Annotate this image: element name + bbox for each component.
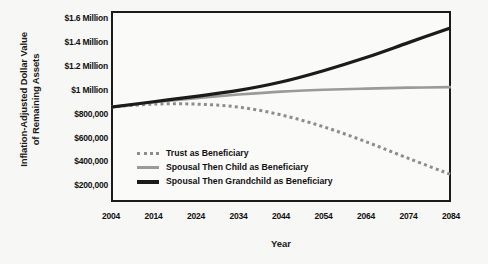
y-axis-tick-label: $1.2 Million xyxy=(0,61,108,71)
x-axis-tick-label: 2014 xyxy=(134,211,174,221)
chart-container: Inflation-Adjusted Dollar Value of Remai… xyxy=(0,0,488,264)
legend-label: Trust as Beneficiary xyxy=(166,148,249,158)
y-axis-tick-label: $1.6 Million xyxy=(0,13,108,23)
legend-item[interactable]: Spousal Then Child as Beneficiary xyxy=(137,160,333,174)
y-axis-tick-label: $200,000 xyxy=(0,180,108,190)
x-axis-tick-label: 2054 xyxy=(304,211,344,221)
x-axis-title: Year xyxy=(111,238,451,249)
x-axis-tick-label: 2044 xyxy=(261,211,301,221)
x-axis-tick-label: 2084 xyxy=(431,211,471,221)
x-axis-tick-label: 2024 xyxy=(176,211,216,221)
y-axis-tick-label: $400,000 xyxy=(0,156,108,166)
x-axis-tick-label: 2004 xyxy=(91,211,131,221)
chart-legend: Trust as BeneficiarySpousal Then Child a… xyxy=(137,146,333,188)
legend-swatch-icon xyxy=(137,176,159,186)
legend-item[interactable]: Spousal Then Grandchild as Beneficiary xyxy=(137,174,333,188)
y-axis-tick-labels: $1.6 Million$1.4 Million$1.2 Million$1 M… xyxy=(0,0,108,264)
y-axis-tick-label: $800,000 xyxy=(0,109,108,119)
legend-swatch-icon xyxy=(137,148,159,158)
x-axis-tick-label: 2034 xyxy=(219,211,259,221)
y-axis-tick-label: $600,000 xyxy=(0,133,108,143)
legend-label: Spousal Then Grandchild as Beneficiary xyxy=(166,176,333,186)
series-line xyxy=(111,28,451,107)
x-axis-tick-label: 2074 xyxy=(389,211,429,221)
legend-item[interactable]: Trust as Beneficiary xyxy=(137,146,333,160)
legend-label: Spousal Then Child as Beneficiary xyxy=(166,162,308,172)
y-axis-tick-label: $1 Million xyxy=(0,85,108,95)
legend-swatch-icon xyxy=(137,162,159,172)
x-axis-tick-label: 2064 xyxy=(346,211,386,221)
y-axis-tick-label: $1.4 Million xyxy=(0,37,108,47)
